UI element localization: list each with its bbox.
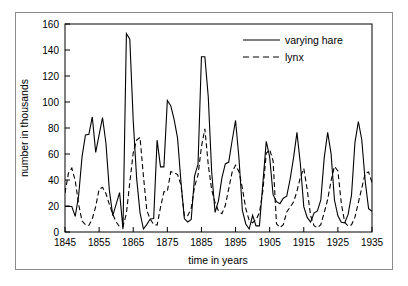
- x-tick-label: 1845: [54, 237, 77, 248]
- x-tick-label: 1875: [156, 237, 179, 248]
- legend-label-varying-hare: varying hare: [285, 34, 343, 46]
- x-tick-label: 1935: [361, 237, 384, 248]
- y-axis-title: number in thousands: [18, 79, 30, 177]
- y-tick-label: 100: [42, 97, 59, 108]
- y-tick-label: 60: [48, 149, 60, 160]
- x-axis-title: time in years: [188, 254, 248, 266]
- y-tick-label: 20: [48, 201, 60, 212]
- y-tick-label: 120: [42, 71, 59, 82]
- legend-label-lynx: lynx: [285, 51, 304, 63]
- y-tick-label: 80: [48, 123, 60, 134]
- x-tick-label: 1895: [224, 237, 247, 248]
- figure-container: 020406080100120140160 184518551865187518…: [0, 0, 408, 286]
- y-tick-label: 0: [53, 227, 59, 238]
- x-tick-label: 1855: [88, 237, 111, 248]
- y-tick-label: 140: [42, 45, 59, 56]
- y-tick-label: 160: [42, 19, 59, 30]
- x-tick-label: 1885: [190, 237, 213, 248]
- line-chart: 020406080100120140160 184518551865187518…: [0, 0, 408, 286]
- y-axis-tick-labels: 020406080100120140160: [42, 19, 59, 238]
- x-tick-label: 1905: [259, 237, 282, 248]
- x-tick-label: 1925: [327, 237, 350, 248]
- x-axis-tick-labels: 1845185518651875188518951905191519251935: [54, 237, 384, 248]
- x-tick-label: 1915: [293, 237, 316, 248]
- y-tick-label: 40: [48, 175, 60, 186]
- x-tick-label: 1865: [122, 237, 145, 248]
